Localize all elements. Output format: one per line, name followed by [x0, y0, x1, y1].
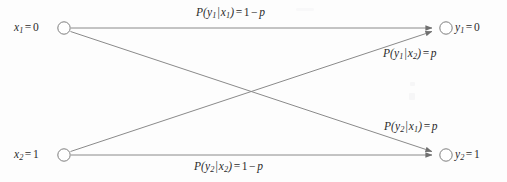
node-x2-circle[interactable] [58, 149, 70, 161]
edge-bot-prefix: P( [194, 160, 205, 172]
node-y2-value: 1 [474, 148, 480, 160]
edge-label-x2-y1: P(y1|x2)=p [383, 48, 437, 61]
node-label-x2: x2=1 [14, 149, 39, 162]
edge-label-x1-y2: P(y2|x1)=p [384, 121, 438, 134]
edge-cross2-equals: = [422, 120, 432, 132]
edge-cross1-equals: = [421, 47, 431, 59]
edge-bot-value-num: 1 [242, 160, 248, 172]
edge-cross2-prefix: P( [384, 120, 395, 132]
edge-label-x1-y1: P(y1|x1)=1−p [196, 7, 265, 20]
edge-cross1-prefix: P( [383, 47, 394, 59]
figure-canvas: x1=0 x2=1 y1=0 y2=1 P(y1|x1)=1−p P(y1|x2… [0, 0, 507, 182]
node-label-x1: x1=0 [14, 22, 39, 35]
edge-cross1-value-p: p [431, 47, 437, 59]
node-y1-value: 0 [474, 21, 480, 33]
node-y2-equals: = [464, 148, 474, 160]
edge-bot-value-minus: − [248, 160, 258, 172]
node-label-y2: y2=1 [455, 149, 480, 162]
edge-top-prefix: P( [196, 6, 207, 18]
scan-artifact [409, 93, 415, 100]
node-x2-equals: = [23, 148, 33, 160]
edge-group [71, 28, 433, 155]
node-y1-equals: = [464, 21, 474, 33]
node-x1-equals: = [23, 21, 33, 33]
edge-top-value-num: 1 [244, 6, 250, 18]
scan-artifact [410, 82, 415, 86]
edge-top-value-minus: − [250, 6, 260, 18]
edge-bot-equals: = [232, 160, 242, 172]
node-x2-value: 1 [33, 148, 39, 160]
node-x1-value: 0 [33, 21, 39, 33]
scan-artifact [296, 8, 314, 11]
edge-top-value-p: p [259, 6, 265, 18]
node-y2-circle[interactable] [440, 149, 452, 161]
node-group [58, 22, 452, 161]
node-label-y1: y1=0 [455, 22, 480, 35]
edge-bot-value-p: p [257, 160, 263, 172]
edge-label-x2-y2: P(y2|x2)=1−p [194, 161, 263, 174]
edge-cross2-value-p: p [432, 120, 438, 132]
edge-top-equals: = [234, 6, 244, 18]
channel-diagram-svg [0, 0, 507, 182]
node-y1-circle[interactable] [440, 22, 452, 34]
node-x1-circle[interactable] [58, 22, 70, 34]
